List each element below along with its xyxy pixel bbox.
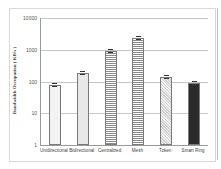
x-tick-label: Smart Ring	[178, 148, 208, 153]
error-bar	[192, 81, 197, 85]
error-bar	[80, 71, 85, 75]
y-tick-label: 10	[17, 110, 37, 116]
gridline	[41, 113, 208, 114]
x-tick-label: Token	[150, 148, 180, 153]
gridline	[41, 50, 208, 51]
y-tick-label: 100	[17, 79, 37, 85]
bar-token	[160, 77, 172, 145]
bar-centralized	[105, 51, 117, 145]
y-tick-label: 1000	[17, 47, 37, 53]
bar-bidirectional	[77, 73, 89, 145]
error-bar	[52, 83, 57, 87]
y-axis-label: Bandwidth Occupation ( KB/s )	[12, 41, 17, 121]
x-tick-label: Unidirectional	[39, 148, 69, 153]
x-tick-label: Bidirectional	[67, 148, 97, 153]
x-tick-label: Mesh	[122, 148, 152, 153]
bar-smart-ring	[188, 83, 200, 145]
bar-mesh	[132, 38, 144, 145]
y-tick-label: 10000	[17, 15, 37, 21]
x-tick-label: Centralized	[95, 148, 125, 153]
gridline	[41, 18, 208, 19]
error-bar	[164, 75, 169, 79]
adjacent-panel-edge	[217, 8, 218, 160]
error-bar	[136, 36, 141, 40]
gridline	[41, 82, 208, 83]
error-bar	[108, 49, 113, 53]
y-tick-label: 1	[17, 142, 37, 148]
plot-area	[40, 18, 208, 146]
bar-unidirectional	[49, 85, 61, 145]
